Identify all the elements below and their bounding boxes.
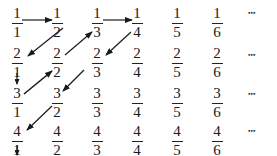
arrow-1-4-to-2-3 <box>106 32 131 55</box>
arrow-2-2-to-1-3 <box>65 32 92 55</box>
arrow-3-2-to-4-1 <box>27 106 52 130</box>
arrow-3-1-to-2-2 <box>24 71 52 94</box>
zigzag-arrows <box>0 0 277 156</box>
arrow-1-2-to-2-1 <box>28 28 63 56</box>
arrow-2-3-to-3-2 <box>63 70 84 91</box>
